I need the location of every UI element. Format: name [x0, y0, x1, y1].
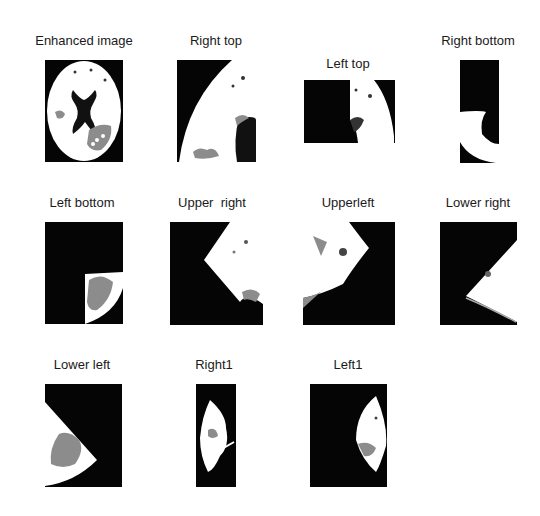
panel-title-upperleft: Upperleft — [322, 195, 375, 210]
right1-panel — [196, 384, 236, 487]
right-bottom-panel — [460, 60, 499, 163]
panel-title-right1: Right1 — [195, 357, 233, 372]
panel-title-right-bottom: Right bottom — [441, 33, 515, 48]
left1-panel — [310, 384, 387, 487]
panel-title-lower-left: Lower left — [54, 357, 110, 372]
left-top-panel — [304, 80, 395, 143]
lower-right-panel — [440, 222, 517, 325]
panel-title-left-top: Left top — [326, 56, 369, 71]
panel-title-right-top: Right top — [190, 33, 242, 48]
right-top-panel — [177, 60, 256, 162]
panel-title-lower-right: Lower right — [446, 195, 510, 210]
upper-right-panel — [170, 222, 263, 325]
panel-title-upper-right: Upper right — [178, 195, 246, 210]
panel-title-left-bottom: Left bottom — [49, 195, 114, 210]
lower-left-panel — [45, 384, 122, 487]
enhanced-image-panel — [45, 60, 123, 162]
left-bottom-panel — [45, 222, 123, 324]
panel-title-enhanced: Enhanced image — [35, 33, 133, 48]
upperleft-panel — [303, 222, 395, 325]
panel-title-left1: Left1 — [334, 357, 363, 372]
